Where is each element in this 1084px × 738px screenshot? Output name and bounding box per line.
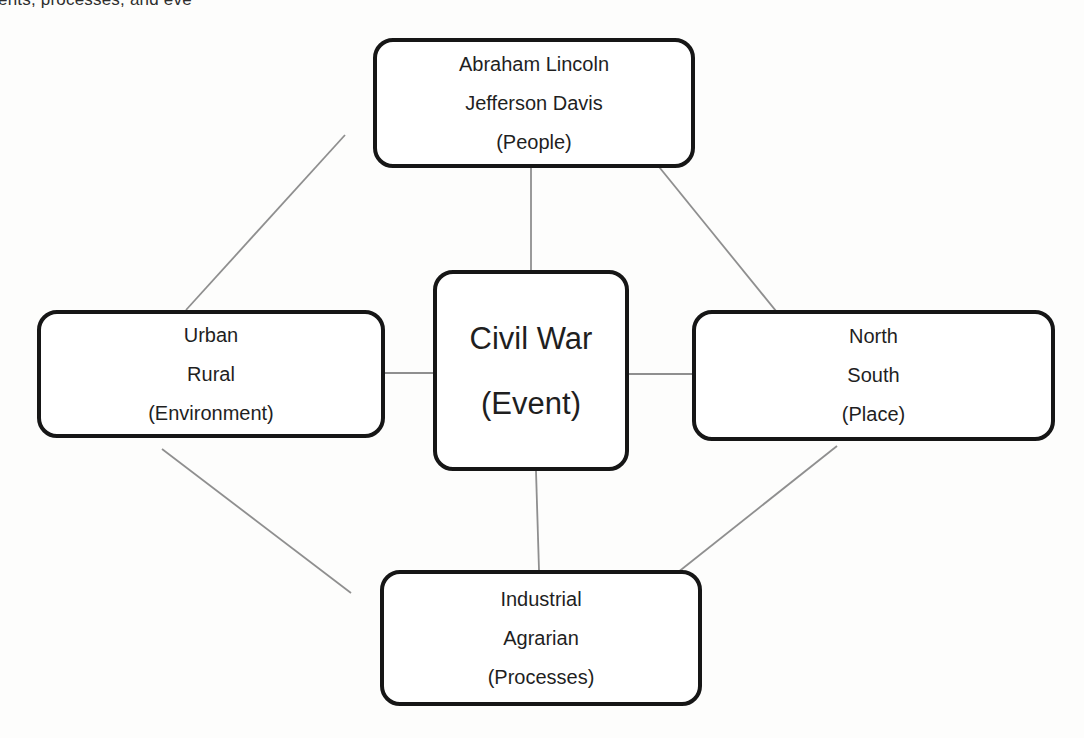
node-category-label: (Processes) bbox=[488, 658, 595, 697]
node-line: Jefferson Davis bbox=[465, 84, 602, 123]
node-environment: Urban Rural (Environment) bbox=[37, 310, 385, 438]
connector-environment-processes bbox=[162, 449, 351, 593]
node-people: Abraham Lincoln Jefferson Davis (People) bbox=[373, 38, 695, 168]
node-category-label: (People) bbox=[496, 123, 572, 162]
node-place: North South (Place) bbox=[692, 310, 1055, 441]
connector-event-processes bbox=[536, 471, 539, 570]
node-line: Urban bbox=[184, 316, 238, 355]
connector-people-place bbox=[651, 157, 789, 327]
node-line: Abraham Lincoln bbox=[459, 45, 609, 84]
node-line: North bbox=[849, 317, 898, 356]
node-category-label: (Environment) bbox=[148, 394, 274, 433]
node-event-center: Civil War (Event) bbox=[433, 270, 629, 471]
node-line: Rural bbox=[187, 355, 235, 394]
node-category-label: (Place) bbox=[842, 395, 905, 434]
node-category-label: (Event) bbox=[481, 371, 581, 436]
node-line: South bbox=[847, 356, 899, 395]
node-line: Industrial bbox=[500, 580, 581, 619]
node-processes: Industrial Agrarian (Processes) bbox=[380, 570, 702, 706]
connector-people-environment bbox=[186, 135, 345, 310]
node-line: Agrarian bbox=[503, 619, 579, 658]
node-line: Civil War bbox=[470, 306, 593, 371]
scanned-diagram-page: ents, processes, and eve Abraham Lincoln… bbox=[0, 0, 1084, 738]
